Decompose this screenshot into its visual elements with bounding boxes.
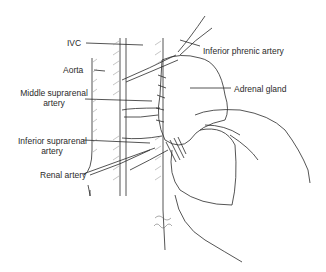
- label-ivc: IVC: [67, 38, 81, 48]
- hand-outline: [195, 110, 310, 183]
- renal-artery-pointer: [83, 148, 155, 174]
- label-inferior-suprarenal-artery: Inferior suprarenal artery: [18, 136, 86, 156]
- aorta-wall-left: [84, 58, 92, 175]
- inferior-suprarenal-pointer: [83, 140, 150, 143]
- label-renal-artery: Renal artery: [40, 170, 86, 180]
- label-inferior-suprarenal-line1: Inferior suprarenal: [18, 136, 86, 146]
- anatomical-diagram: IVC Aorta Middle suprarenal artery Infer…: [0, 0, 326, 272]
- label-inferior-phrenic-artery: Inferior phrenic artery: [203, 46, 284, 56]
- label-middle-suprarenal-artery: Middle suprarenal artery: [20, 88, 88, 108]
- kidney-shape: [171, 129, 236, 205]
- label-adrenal-gland: Adrenal gland: [234, 84, 286, 94]
- label-aorta: Aorta: [63, 65, 83, 75]
- label-middle-suprarenal-line2: artery: [20, 98, 88, 108]
- label-inferior-suprarenal-line2: artery: [18, 146, 86, 156]
- artist-signature: [154, 216, 172, 228]
- label-middle-suprarenal-line1: Middle suprarenal: [20, 88, 88, 98]
- adrenal-gland-shape: [158, 55, 227, 145]
